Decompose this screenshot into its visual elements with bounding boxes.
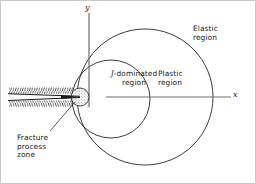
x-axis-label: x [233,90,238,99]
label-elastic-region: Elastic region [193,25,233,42]
label-fracture-process-zone: Fracture process zone [17,134,63,160]
label-plastic-region: Plastic region [158,70,196,87]
label-plastic-line2: region [158,78,182,87]
label-j-dominated-region-word: region [122,78,146,87]
label-j-dominated-region: J-dominated region [105,70,163,87]
y-axis-label: y [85,3,90,12]
figure-canvas: J-dominated region Plastic region Elasti… [0,0,256,184]
label-elastic-line2: region [193,33,217,42]
crack-shape [8,88,81,107]
label-fracture-line3: zone [17,150,35,159]
